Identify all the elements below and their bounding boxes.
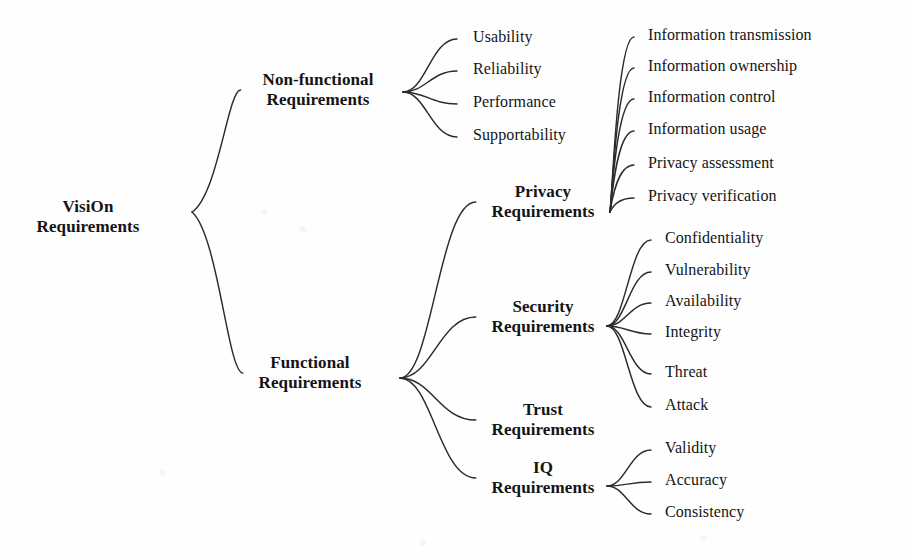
node-text-line: Trust bbox=[492, 400, 595, 420]
connector-edge bbox=[607, 272, 651, 326]
scan-speckle bbox=[300, 226, 306, 233]
node-performance: Performance bbox=[473, 93, 556, 112]
connector-edge bbox=[610, 165, 634, 212]
connector-edge bbox=[610, 68, 634, 212]
connector-edge bbox=[400, 378, 476, 478]
node-privacy-requirements: PrivacyRequirements bbox=[492, 182, 595, 222]
connector-edge bbox=[610, 37, 634, 212]
node-text-line: Functional bbox=[259, 353, 362, 373]
connector-edge bbox=[607, 326, 651, 374]
node-text-line: Reliability bbox=[473, 60, 542, 79]
node-threat: Threat bbox=[665, 363, 707, 382]
node-text-line: Requirements bbox=[492, 202, 595, 222]
connector-edge bbox=[607, 450, 651, 486]
node-attack: Attack bbox=[665, 396, 708, 415]
node-iq-requirements: IQRequirements bbox=[492, 458, 595, 498]
node-text-line: Vulnerability bbox=[665, 261, 751, 280]
connector-edge bbox=[607, 482, 651, 486]
node-trust-requirements: TrustRequirements bbox=[492, 400, 595, 440]
connector-edge bbox=[192, 212, 243, 373]
connector-edge bbox=[403, 92, 457, 104]
connector-edge bbox=[403, 39, 457, 92]
node-text-line: Availability bbox=[665, 292, 741, 311]
node-text-line: Information transmission bbox=[648, 26, 812, 45]
node-text-line: Privacy bbox=[492, 182, 595, 202]
node-text-line: Performance bbox=[473, 93, 556, 112]
node-text-line: Security bbox=[492, 297, 595, 317]
node-vulnerability: Vulnerability bbox=[665, 261, 751, 280]
node-consistency: Consistency bbox=[665, 503, 744, 522]
node-text-line: Information ownership bbox=[648, 57, 797, 76]
scan-speckle bbox=[700, 535, 707, 540]
node-availability: Availability bbox=[665, 292, 741, 311]
connector-edge bbox=[610, 198, 634, 212]
node-text-line: VisiOn bbox=[37, 197, 140, 217]
connector-edge bbox=[400, 317, 476, 378]
node-text-line: Requirements bbox=[37, 217, 140, 237]
scan-speckle bbox=[160, 470, 165, 476]
connector-edge bbox=[610, 131, 634, 212]
node-text-line: Requirements bbox=[492, 317, 595, 337]
connector-edge bbox=[607, 326, 651, 407]
connector-edge bbox=[403, 92, 457, 137]
node-text-line: Consistency bbox=[665, 503, 744, 522]
connector-edge bbox=[403, 71, 457, 92]
node-text-line: IQ bbox=[492, 458, 595, 478]
scan-speckle bbox=[262, 210, 267, 215]
scan-speckle bbox=[420, 540, 426, 546]
node-text-line: Usability bbox=[473, 28, 533, 47]
node-supportability: Supportability bbox=[473, 126, 566, 145]
node-information-transmission: Information transmission bbox=[648, 26, 812, 45]
connector-edge bbox=[607, 486, 651, 514]
node-functional-requirements: FunctionalRequirements bbox=[259, 353, 362, 393]
node-validity: Validity bbox=[665, 439, 716, 458]
connector-edge bbox=[607, 303, 651, 326]
node-information-control: Information control bbox=[648, 88, 776, 107]
node-text-line: Privacy assessment bbox=[648, 154, 774, 173]
node-reliability: Reliability bbox=[473, 60, 542, 79]
node-information-usage: Information usage bbox=[648, 120, 767, 139]
mind-map-diagram: VisiOnRequirements Non-functionalRequire… bbox=[0, 0, 910, 558]
node-text-line: Privacy verification bbox=[648, 187, 777, 206]
node-text-line: Threat bbox=[665, 363, 707, 382]
node-usability: Usability bbox=[473, 28, 533, 47]
node-text-line: Attack bbox=[665, 396, 708, 415]
node-information-ownership: Information ownership bbox=[648, 57, 797, 76]
connector-edge bbox=[607, 240, 651, 326]
node-text-line: Integrity bbox=[665, 323, 721, 342]
node-visi-on-requirements: VisiOnRequirements bbox=[37, 197, 140, 237]
node-integrity: Integrity bbox=[665, 323, 721, 342]
node-text-line: Supportability bbox=[473, 126, 566, 145]
connector-edge bbox=[607, 326, 651, 334]
node-text-line: Confidentiality bbox=[665, 229, 763, 248]
connector-edge bbox=[400, 202, 476, 378]
node-text-line: Accuracy bbox=[665, 471, 727, 490]
connector-edge bbox=[610, 99, 634, 212]
node-text-line: Information usage bbox=[648, 120, 767, 139]
node-non-functional-requirements: Non-functionalRequirements bbox=[263, 70, 374, 110]
edge-layer bbox=[0, 0, 910, 558]
node-text-line: Requirements bbox=[263, 90, 374, 110]
node-privacy-verification: Privacy verification bbox=[648, 187, 777, 206]
node-text-line: Validity bbox=[665, 439, 716, 458]
connector-edge bbox=[400, 378, 476, 420]
node-security-requirements: SecurityRequirements bbox=[492, 297, 595, 337]
node-text-line: Non-functional bbox=[263, 70, 374, 90]
node-privacy-assessment: Privacy assessment bbox=[648, 154, 774, 173]
connector-edge bbox=[192, 90, 241, 212]
node-text-line: Requirements bbox=[492, 420, 595, 440]
node-text-line: Requirements bbox=[492, 478, 595, 498]
node-accuracy: Accuracy bbox=[665, 471, 727, 490]
node-text-line: Information control bbox=[648, 88, 776, 107]
node-confidentiality: Confidentiality bbox=[665, 229, 763, 248]
node-text-line: Requirements bbox=[259, 373, 362, 393]
